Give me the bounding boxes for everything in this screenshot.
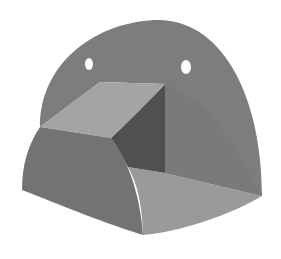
hole-right bbox=[181, 60, 191, 74]
solid-model-figure bbox=[0, 0, 281, 259]
figure-stage bbox=[0, 0, 281, 259]
hole-left bbox=[85, 58, 93, 70]
